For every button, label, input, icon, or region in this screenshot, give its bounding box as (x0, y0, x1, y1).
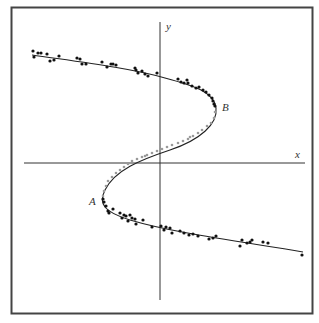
s-curve-figure: y x B A (0, 0, 319, 323)
point-b-label: B (222, 101, 229, 113)
figure-frame (12, 8, 313, 314)
point-a-label: A (88, 195, 96, 207)
x-axis-label: x (294, 148, 300, 160)
y-axis-label: y (165, 20, 171, 32)
